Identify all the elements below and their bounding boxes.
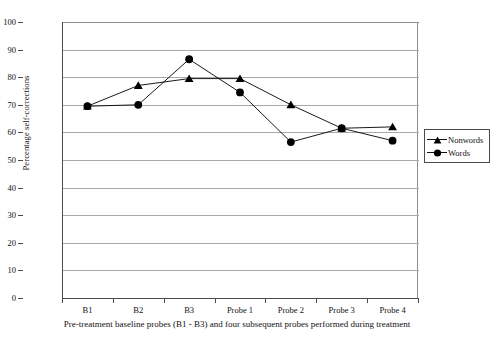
x-tick-label-b3: B3 bbox=[184, 306, 194, 315]
legend-item-words[interactable]: Words bbox=[427, 146, 486, 159]
x-tick-label-probe-3: Probe 3 bbox=[329, 306, 355, 315]
series-layer bbox=[0, 0, 494, 354]
x-tick-mark-7 bbox=[418, 298, 419, 303]
series-line-words bbox=[87, 59, 392, 142]
data-point-circle-1-0 bbox=[84, 102, 92, 110]
chart-legend: Nonwords Words bbox=[424, 129, 490, 163]
x-tick-mark-4 bbox=[265, 298, 266, 303]
data-point-triangle-0-4 bbox=[286, 101, 295, 109]
data-point-circle-1-1 bbox=[134, 101, 142, 109]
legend-label-nonwords: Nonwords bbox=[447, 135, 483, 145]
x-axis-caption: Pre-treatment baseline probes (B1 - B3) … bbox=[52, 318, 422, 331]
x-tick-mark-1 bbox=[113, 298, 114, 303]
data-point-circle-1-4 bbox=[287, 138, 295, 146]
data-point-circle-1-3 bbox=[236, 88, 244, 96]
x-tick-mark-6 bbox=[367, 298, 368, 303]
x-tick-label-probe-4: Probe 4 bbox=[379, 306, 405, 315]
chart-figure: Percentage self-corrections 100908070605… bbox=[0, 0, 494, 354]
series-words bbox=[84, 55, 397, 146]
data-point-circle-1-2 bbox=[185, 55, 193, 63]
x-tick-mark-3 bbox=[215, 298, 216, 303]
data-point-circle-1-5 bbox=[338, 124, 346, 132]
legend-item-nonwords[interactable]: Nonwords bbox=[427, 133, 486, 146]
triangle-marker-icon bbox=[427, 134, 447, 146]
x-tick-mark-0 bbox=[62, 298, 63, 303]
x-tick-label-b1: B1 bbox=[82, 306, 92, 315]
x-tick-mark-2 bbox=[164, 298, 165, 303]
circle-marker-icon bbox=[427, 147, 447, 159]
legend-label-words: Words bbox=[447, 148, 470, 158]
x-tick-mark-5 bbox=[316, 298, 317, 303]
x-tick-label-probe-2: Probe 2 bbox=[278, 306, 304, 315]
data-point-circle-1-6 bbox=[389, 137, 397, 145]
x-tick-label-probe-1: Probe 1 bbox=[227, 306, 253, 315]
x-tick-label-b2: B2 bbox=[133, 306, 143, 315]
series-line-nonwords bbox=[87, 79, 392, 129]
series-nonwords bbox=[83, 74, 397, 131]
data-point-triangle-0-6 bbox=[388, 123, 397, 131]
